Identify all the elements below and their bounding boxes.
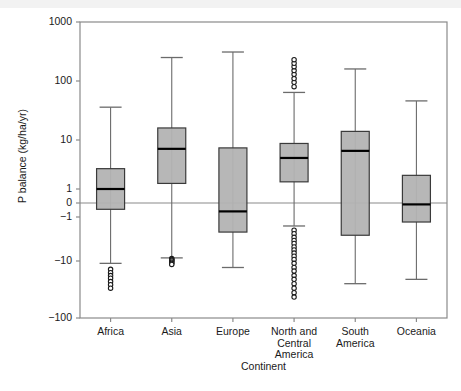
x-tick-label-line: America [310, 338, 400, 350]
outlier-low-3-14 [292, 277, 296, 281]
boxplot-group-5 [402, 101, 430, 279]
y-tick-label-0: 1000 [28, 15, 72, 27]
box-iqr-1 [158, 128, 186, 183]
y-tick-label-7: −100 [28, 311, 72, 323]
boxplot-group-0 [97, 107, 125, 290]
outlier-low-3-17 [292, 291, 296, 295]
outlier-high-3-7 [292, 57, 296, 61]
box-iqr-4 [341, 131, 369, 235]
outlier-low-1-6 [170, 262, 174, 266]
boxplot-group-1 [158, 58, 186, 267]
y-tick-label-2: 10 [28, 133, 72, 145]
y-tick-label-4: 0 [28, 196, 72, 208]
boxplot-group-2 [219, 52, 247, 267]
outlier-high-3-0 [292, 85, 296, 89]
x-tick-label-5: Oceania [371, 326, 461, 338]
y-axis-title: P balance (kg/ha/yr) [16, 96, 28, 216]
y-tick-label-1: 100 [28, 74, 72, 86]
boxplot-group-4 [341, 69, 369, 284]
box-iqr-5 [402, 175, 430, 222]
figure-container: P balance (kg/ha/yr) Continent 100010010… [0, 0, 461, 391]
x-tick-label-line: Oceania [371, 326, 461, 338]
y-tick-label-3: 1 [28, 182, 72, 194]
x-tick-label-line: America [249, 349, 339, 361]
outlier-low-3-16 [292, 286, 296, 290]
boxplot-group-3 [280, 57, 308, 299]
outlier-low-0-6 [108, 286, 112, 290]
box-iqr-3 [280, 143, 308, 181]
outlier-low-3-12 [292, 269, 296, 273]
outlier-low-3-18 [292, 295, 296, 299]
outlier-low-3-15 [292, 281, 296, 285]
y-tick-label-5: −1 [28, 210, 72, 222]
box-iqr-2 [219, 148, 247, 232]
x-axis-title: Continent [80, 360, 447, 372]
plot-frame [80, 22, 447, 318]
y-tick-label-6: −10 [28, 254, 72, 266]
